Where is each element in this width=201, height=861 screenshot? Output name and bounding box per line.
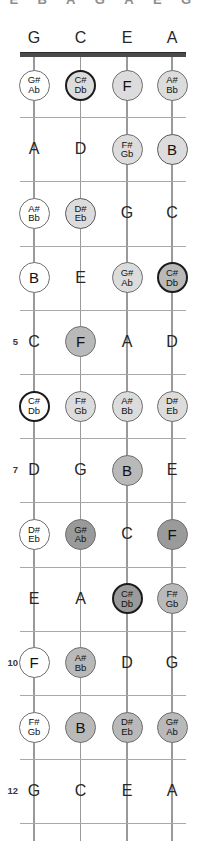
note-marker[interactable]: A xyxy=(109,324,145,360)
clipped-header-glyph: E xyxy=(153,0,162,7)
note-marker[interactable]: G xyxy=(16,20,52,56)
note-marker[interactable]: D xyxy=(16,452,52,488)
note-marker[interactable]: F xyxy=(109,67,145,103)
note-marker[interactable]: A#Bb xyxy=(109,388,145,424)
note-marker[interactable]: G#Ab xyxy=(154,709,190,745)
fret-wire-6 xyxy=(20,438,186,439)
fret-wire-5 xyxy=(20,374,186,375)
note-marker[interactable]: G xyxy=(63,452,99,488)
note-marker[interactable]: G xyxy=(109,195,145,231)
note-flat-label: Gb xyxy=(74,406,87,416)
fret-wire-7 xyxy=(20,502,186,503)
note-label: D xyxy=(75,141,87,157)
note-marker[interactable]: D#Eb xyxy=(63,195,99,231)
note-marker[interactable]: C xyxy=(63,20,99,56)
note-label: G xyxy=(28,30,40,46)
note-marker[interactable]: C xyxy=(154,195,190,231)
note-label: B xyxy=(167,142,177,157)
note-label: B xyxy=(29,270,39,285)
fret-wire-4 xyxy=(20,310,186,311)
note-disc: B xyxy=(157,134,188,165)
note-marker[interactable]: A xyxy=(16,131,52,167)
note-flat-label: Ab xyxy=(28,85,40,95)
note-marker[interactable]: C#Db xyxy=(154,260,190,296)
note-marker[interactable]: C xyxy=(16,324,52,360)
note-label: E xyxy=(75,270,86,286)
note-disc: G#Ab xyxy=(65,519,96,550)
note-marker[interactable]: F#Gb xyxy=(16,709,52,745)
note-marker[interactable]: C#Db xyxy=(16,388,52,424)
note-marker[interactable]: E xyxy=(154,452,190,488)
note-marker[interactable]: B xyxy=(63,709,99,745)
note-marker[interactable]: F xyxy=(63,324,99,360)
clipped-header-glyph: A xyxy=(66,0,76,7)
note-label: C xyxy=(166,205,178,221)
note-marker[interactable]: C#Db xyxy=(63,67,99,103)
note-disc: B xyxy=(19,262,50,293)
fret-wire-9 xyxy=(20,631,186,632)
note-marker[interactable]: F#Gb xyxy=(63,388,99,424)
note-marker[interactable]: D#Eb xyxy=(109,709,145,745)
note-marker[interactable]: G xyxy=(154,645,190,681)
note-marker[interactable]: D xyxy=(109,645,145,681)
note-marker[interactable]: A#Bb xyxy=(154,67,190,103)
note-marker[interactable]: D xyxy=(154,324,190,360)
note-label: D xyxy=(166,334,178,350)
note-marker[interactable]: B xyxy=(109,452,145,488)
fret-wire-11 xyxy=(20,759,186,760)
note-label: F xyxy=(29,655,38,670)
note-marker[interactable]: D#Eb xyxy=(154,388,190,424)
note-marker[interactable]: D#Eb xyxy=(16,516,52,552)
note-flat-label: Ab xyxy=(166,727,178,737)
note-marker[interactable]: E xyxy=(63,260,99,296)
note-marker[interactable]: E xyxy=(109,20,145,56)
note-marker[interactable]: C xyxy=(63,773,99,809)
note-marker[interactable]: C#Db xyxy=(109,581,145,617)
note-label: G xyxy=(28,783,40,799)
note-marker[interactable]: F xyxy=(16,645,52,681)
note-marker[interactable]: A xyxy=(154,773,190,809)
note-flat-label: Bb xyxy=(28,213,40,223)
note-disc: A#Bb xyxy=(65,647,96,678)
note-label: C xyxy=(121,526,133,542)
note-flat-label: Db xyxy=(74,85,86,95)
note-marker[interactable]: F#Gb xyxy=(154,581,190,617)
note-label: C xyxy=(75,783,87,799)
note-marker[interactable]: G#Ab xyxy=(109,260,145,296)
note-disc: G#Ab xyxy=(157,712,188,743)
fret-wire-8 xyxy=(20,567,186,568)
note-marker[interactable]: D xyxy=(63,131,99,167)
note-flat-label: Ab xyxy=(75,534,87,544)
note-flat-label: Eb xyxy=(75,213,87,223)
note-marker[interactable]: A#Bb xyxy=(16,195,52,231)
clipped-header-strip: EBAGAEG xyxy=(0,0,201,7)
note-flat-label: Bb xyxy=(121,406,133,416)
note-flat-label: Db xyxy=(166,278,178,288)
note-disc: F#Gb xyxy=(157,583,188,614)
note-disc: D#Eb xyxy=(112,712,143,743)
fret-wire-12 xyxy=(20,823,186,824)
note-marker[interactable]: F xyxy=(154,516,190,552)
note-flat-label: Gb xyxy=(166,599,179,609)
note-disc: F#Gb xyxy=(19,712,50,743)
note-marker[interactable]: G#Ab xyxy=(16,67,52,103)
note-marker[interactable]: B xyxy=(154,131,190,167)
note-label: G xyxy=(166,655,178,671)
fret-wire-2 xyxy=(20,181,186,182)
note-marker[interactable]: C xyxy=(109,516,145,552)
note-flat-label: Bb xyxy=(166,85,178,95)
note-label: F xyxy=(76,334,85,349)
note-marker[interactable]: A xyxy=(154,20,190,56)
note-marker[interactable]: G xyxy=(16,773,52,809)
note-marker[interactable]: G#Ab xyxy=(63,516,99,552)
note-marker[interactable]: E xyxy=(16,581,52,617)
note-marker[interactable]: A#Bb xyxy=(63,645,99,681)
note-marker[interactable]: A xyxy=(63,581,99,617)
note-marker[interactable]: F#Gb xyxy=(109,131,145,167)
clipped-header-glyph: A xyxy=(124,0,134,7)
note-marker[interactable]: E xyxy=(109,773,145,809)
note-marker[interactable]: B xyxy=(16,260,52,296)
clipped-header-glyph: G xyxy=(181,0,192,7)
note-label: A xyxy=(75,591,86,607)
note-label: E xyxy=(122,783,133,799)
